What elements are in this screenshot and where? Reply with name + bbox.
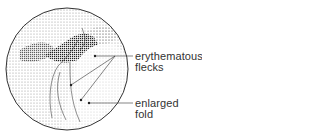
label-line: flecks [135, 62, 202, 73]
label-enlarged-fold: enlarged fold [135, 98, 179, 120]
label-line: fold [135, 109, 179, 120]
label-erythematous-flecks: erythematous flecks [135, 51, 202, 73]
